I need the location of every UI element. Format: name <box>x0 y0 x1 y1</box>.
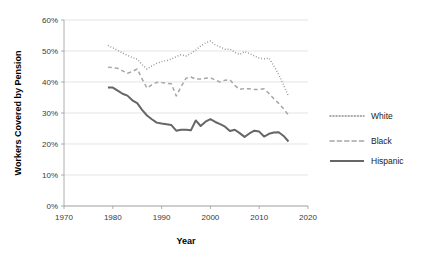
series-line-white <box>108 41 289 96</box>
gridlines <box>64 20 308 206</box>
line-chart: 0%10%20%30%40%50%60% 1970198019902000201… <box>0 0 425 258</box>
y-tick-label: 10% <box>42 171 58 180</box>
x-tick-label: 2010 <box>250 213 268 222</box>
x-tick-label: 2020 <box>299 213 317 222</box>
y-tick-label: 0% <box>46 202 58 211</box>
y-axis-title: Workers Covered by Pension <box>13 51 23 176</box>
x-tick-label: 2000 <box>202 213 220 222</box>
data-series <box>108 41 289 141</box>
legend-label-black: Black <box>371 136 393 146</box>
x-tick-label: 1990 <box>153 213 171 222</box>
y-tick-label: 40% <box>42 78 58 87</box>
axis-lines <box>61 20 308 209</box>
x-axis-title: Year <box>176 236 196 246</box>
y-tick-label: 50% <box>42 47 58 56</box>
y-axis-tick-labels: 0%10%20%30%40%50%60% <box>42 16 58 211</box>
chart-container: 0%10%20%30%40%50%60% 1970198019902000201… <box>0 0 425 258</box>
x-axis-tick-labels: 197019801990200020102020 <box>55 213 317 222</box>
x-tick-label: 1970 <box>55 213 73 222</box>
x-tick-label: 1980 <box>104 213 122 222</box>
series-line-black <box>108 67 289 115</box>
y-tick-label: 20% <box>42 140 58 149</box>
legend-label-hispanic: Hispanic <box>371 156 404 166</box>
series-line-hispanic <box>108 88 289 142</box>
y-tick-label: 60% <box>42 16 58 25</box>
legend-label-white: White <box>371 111 393 121</box>
y-tick-label: 30% <box>42 109 58 118</box>
chart-legend: WhiteBlackHispanic <box>330 111 404 166</box>
